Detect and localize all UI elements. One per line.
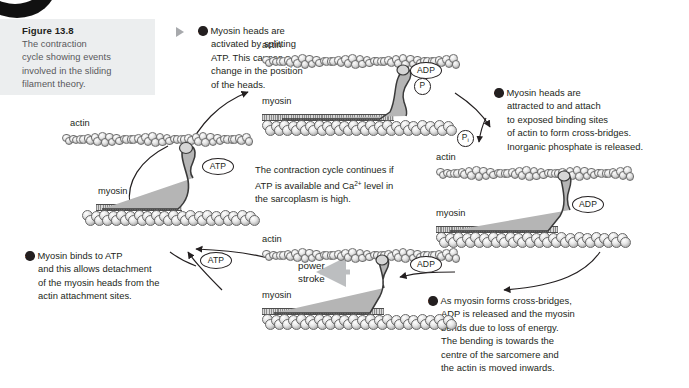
badge-adp-right: ADP xyxy=(572,196,604,213)
diagram-bottom: actin myosin power stroke ADP xyxy=(262,234,462,334)
badge-adp-bottom: ADP xyxy=(410,256,442,273)
diagram-right-head xyxy=(436,152,636,252)
diagram-bottom-head xyxy=(262,234,462,334)
diagram-left: actin myosin ATP xyxy=(62,118,262,228)
badge-atp-left: ATP xyxy=(202,158,234,175)
badge-phosphate-subscript: i xyxy=(467,137,468,143)
diagram-top-head xyxy=(262,40,462,140)
figure-canvas: Figure 13.8 The contraction cycle showin… xyxy=(0,0,689,388)
diagram-right: actin myosin ADP xyxy=(436,152,636,252)
badge-atp-cycle: ATP xyxy=(200,252,232,269)
arrow-atp-to-left xyxy=(170,252,196,266)
arrow-phosphate-release xyxy=(479,118,486,142)
power-stroke-line-1: power xyxy=(298,260,325,273)
power-stroke-label: power stroke xyxy=(298,260,325,285)
power-stroke-line-2: stroke xyxy=(298,273,325,286)
diagram-top: actin myosin ADP P xyxy=(262,40,462,140)
badge-inorganic-phosphate: Pi xyxy=(457,130,474,147)
arrow-right-to-bottom xyxy=(504,252,600,290)
diagram-left-head xyxy=(62,118,262,228)
badge-adp-top: ADP xyxy=(410,62,442,79)
badge-phosphate-top: P xyxy=(414,78,431,95)
